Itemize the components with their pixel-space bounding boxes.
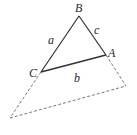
side-label-b: b <box>74 71 80 85</box>
triangle-diagram: B A C a c b <box>0 0 137 135</box>
vertex-label-a: A <box>107 46 116 60</box>
vertex-label-b: B <box>75 1 83 15</box>
base-dashed <box>10 86 126 118</box>
side-c-line <box>79 16 106 55</box>
side-label-a: a <box>48 33 54 47</box>
vertex-label-c: C <box>29 66 38 80</box>
side-label-c: c <box>94 23 100 37</box>
